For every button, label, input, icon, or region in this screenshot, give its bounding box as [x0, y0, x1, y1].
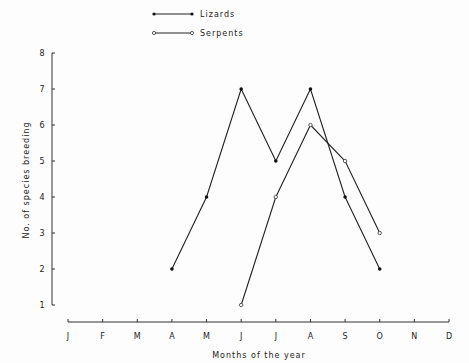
legend: Lizards Serpents — [152, 10, 243, 38]
x-tick-label: A — [169, 332, 175, 341]
y-axis-label: No. of species breeding — [22, 122, 31, 239]
y-tick-label: 2 — [39, 265, 44, 274]
axis-ticks: JFMAMJJASOND12345678 — [39, 49, 452, 341]
data-point — [343, 159, 346, 162]
legend-label-serpents: Serpents — [200, 29, 244, 38]
y-tick-label: 5 — [39, 157, 44, 166]
y-tick-label: 8 — [39, 49, 44, 58]
series-serpents — [239, 123, 381, 306]
data-point — [239, 303, 242, 306]
data-point — [378, 231, 381, 234]
x-tick-label: M — [203, 332, 210, 341]
x-tick-label: S — [343, 332, 348, 341]
data-point — [309, 123, 312, 126]
series-lizards — [170, 87, 381, 271]
x-tick-label: D — [446, 332, 452, 341]
x-tick-label: N — [411, 332, 417, 341]
x-tick-label: J — [66, 332, 69, 341]
x-tick-label: F — [100, 332, 105, 341]
legend-item-lizards: Lizards — [152, 10, 235, 19]
x-axis-label: Months of the year — [212, 351, 306, 360]
data-point — [170, 267, 174, 271]
filled-circle-marker-icon — [152, 12, 155, 15]
x-tick-label: J — [239, 332, 242, 341]
data-point — [378, 267, 382, 271]
y-tick-label: 6 — [39, 121, 44, 130]
data-point — [239, 87, 243, 91]
filled-circle-marker-icon — [190, 12, 193, 15]
data-point — [274, 195, 277, 198]
y-tick-label: 4 — [39, 193, 44, 202]
y-tick-label: 3 — [39, 229, 44, 238]
open-circle-marker-icon — [190, 31, 193, 34]
data-point — [205, 195, 209, 199]
x-tick-label: A — [308, 332, 314, 341]
legend-label-lizards: Lizards — [200, 10, 235, 19]
x-tick-label: M — [134, 332, 141, 341]
x-tick-label: J — [274, 332, 277, 341]
data-point — [309, 87, 313, 91]
data-series — [170, 87, 381, 306]
y-tick-label: 1 — [39, 301, 44, 310]
x-tick-label: O — [377, 332, 383, 341]
data-point — [343, 195, 347, 199]
y-tick-label: 7 — [39, 85, 44, 94]
open-circle-marker-icon — [152, 31, 155, 34]
breeding-chart: Lizards Serpents No. of species breeding… — [0, 0, 469, 363]
data-point — [274, 159, 278, 163]
legend-item-serpents: Serpents — [152, 29, 243, 38]
